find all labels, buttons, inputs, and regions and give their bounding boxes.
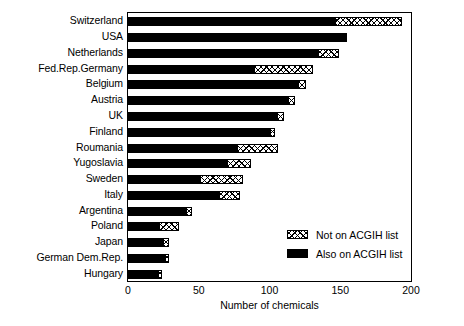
bar-segment-also-on-list <box>128 33 347 42</box>
bar-segment-not-on-list <box>163 238 169 247</box>
bar-segment-not-on-list <box>165 254 169 263</box>
category-label: German Dem.Rep. <box>0 252 123 263</box>
legend-swatch-hatch <box>287 230 308 239</box>
x-axis-title: Number of chemicals <box>127 299 412 311</box>
bar-row <box>128 112 284 121</box>
legend-item: Also on ACGIH list <box>287 247 407 260</box>
category-label: Italy <box>0 189 123 200</box>
bar-segment-not-on-list <box>227 159 251 168</box>
bar-segment-not-on-list <box>237 144 278 153</box>
bar-segment-also-on-list <box>128 207 186 216</box>
bar-segment-not-on-list <box>159 222 179 231</box>
bar-row <box>128 128 275 137</box>
bar-row <box>128 17 402 26</box>
category-label: Roumania <box>0 142 123 153</box>
category-label: Switzerland <box>0 15 123 26</box>
bar-segment-also-on-list <box>128 254 165 263</box>
bar-row <box>128 80 306 89</box>
bar-row <box>128 49 339 58</box>
bar-segment-not-on-list <box>277 112 284 121</box>
category-label: Argentina <box>0 205 123 216</box>
bar-segment-also-on-list <box>128 191 219 200</box>
x-tick-label: 50 <box>193 284 205 296</box>
legend-item: Not on ACGIH list <box>287 228 407 241</box>
bar-row <box>128 254 169 263</box>
bar-segment-not-on-list <box>335 17 403 26</box>
bar-segment-also-on-list <box>128 238 163 247</box>
legend-label: Not on ACGIH list <box>316 229 398 241</box>
category-label: Yugoslavia <box>0 157 123 168</box>
category-label: UK <box>0 110 123 121</box>
category-label: USA <box>0 31 123 42</box>
bar-row <box>128 175 243 184</box>
bar-segment-also-on-list <box>128 80 298 89</box>
bar-segment-also-on-list <box>128 144 237 153</box>
bar-segment-also-on-list <box>128 96 288 105</box>
bar-segment-not-on-list <box>200 175 242 184</box>
bar-segment-also-on-list <box>128 65 254 74</box>
bar-segment-also-on-list <box>128 128 270 137</box>
bar-segment-also-on-list <box>128 17 335 26</box>
bar-row <box>128 159 251 168</box>
category-axis: SwitzerlandUSANetherlandsFed.Rep.Germany… <box>0 12 123 282</box>
category-label: Sweden <box>0 173 123 184</box>
legend-label: Also on ACGIH list <box>316 248 402 260</box>
bar-segment-also-on-list <box>128 270 158 279</box>
bar-row <box>128 33 347 42</box>
bar-segment-also-on-list <box>128 49 318 58</box>
bar-segment-not-on-list <box>270 128 276 137</box>
category-label: Fed.Rep.Germany <box>0 63 123 74</box>
bar-segment-also-on-list <box>128 175 200 184</box>
bar-segment-not-on-list <box>298 80 306 89</box>
category-label: Poland <box>0 220 123 231</box>
chart-legend: Not on ACGIH listAlso on ACGIH list <box>287 228 407 266</box>
bar-row <box>128 270 162 279</box>
category-label: Finland <box>0 126 123 137</box>
bar-segment-also-on-list <box>128 159 227 168</box>
bar-row <box>128 65 313 74</box>
bar-segment-not-on-list <box>219 191 240 200</box>
bar-segment-not-on-list <box>254 65 313 74</box>
bar-segment-also-on-list <box>128 112 277 121</box>
x-tick-label: 100 <box>261 284 279 296</box>
category-label: Japan <box>0 236 123 247</box>
x-tick-label: 200 <box>402 284 420 296</box>
bar-row <box>128 191 240 200</box>
category-label: Austria <box>0 94 123 105</box>
bar-chart-figure: SwitzerlandUSANetherlandsFed.Rep.Germany… <box>0 0 464 326</box>
bar-row <box>128 238 169 247</box>
bar-segment-not-on-list <box>318 49 339 58</box>
legend-swatch-solid <box>287 249 308 258</box>
x-tick-label: 0 <box>125 284 131 296</box>
bar-segment-not-on-list <box>158 270 162 279</box>
category-label: Hungary <box>0 268 123 279</box>
bar-segment-not-on-list <box>186 207 192 216</box>
category-label: Belgium <box>0 78 123 89</box>
bar-segment-not-on-list <box>288 96 295 105</box>
bar-row <box>128 96 295 105</box>
x-tick-label: 150 <box>331 284 349 296</box>
category-label: Netherlands <box>0 47 123 58</box>
bar-row <box>128 222 179 231</box>
bar-segment-also-on-list <box>128 222 159 231</box>
bar-row <box>128 207 192 216</box>
bar-row <box>128 144 278 153</box>
